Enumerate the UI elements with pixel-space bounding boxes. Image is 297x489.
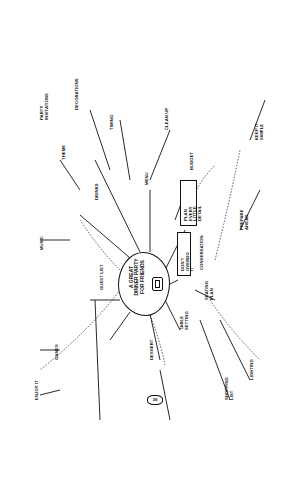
central-node-label: A GREAT DINNER PARTY FOR FRIENDS (129, 255, 145, 299)
node-label: DECORATIONS (75, 78, 80, 110)
mind-map: A GREAT DINNER PARTY FOR FRIENDS PLAN EV… (0, 0, 297, 489)
node-label: MENU (145, 172, 150, 185)
cooking-pot-icon (152, 277, 163, 291)
page-number: 39 (147, 395, 163, 405)
boxed-node-plan-detail: PLAN EVERY LITTLE DETAIL (180, 180, 197, 226)
boxed-node-label: PLAN EVERY LITTLE DETAIL (184, 206, 202, 221)
central-node: A GREAT DINNER PARTY FOR FRIENDS (118, 252, 170, 316)
node-label: TABLE SETTING (180, 311, 189, 330)
node-label: CLEAN UP (165, 108, 170, 130)
node-label: GAMES (55, 344, 60, 360)
node-label: LIGHTING (250, 359, 255, 380)
node-label: TIMING (110, 115, 115, 130)
node-label: SHOPPING LIST (225, 377, 234, 400)
node-label: GUEST LIST (100, 264, 105, 290)
node-label: KEEP IT SIMPLE (255, 123, 264, 140)
boxed-node-label: DON'T OVERDO IT (181, 252, 195, 271)
node-label: CONVERSATION (200, 235, 205, 270)
node-label: PARTY INVITATIONS (40, 93, 49, 120)
node-label: PREPARE AHEAD (240, 209, 249, 230)
node-label: SEATING PLAN (205, 281, 214, 300)
boxed-node-dont-overdo: DON'T OVERDO IT (177, 232, 191, 276)
node-label: DRINKS (95, 183, 100, 200)
node-label: THEME (62, 145, 67, 160)
node-label: ENJOY IT (35, 380, 40, 400)
node-label: BUDGET (190, 152, 195, 170)
node-label: MUSIC (40, 236, 45, 250)
node-label: DESSERT (150, 340, 155, 360)
